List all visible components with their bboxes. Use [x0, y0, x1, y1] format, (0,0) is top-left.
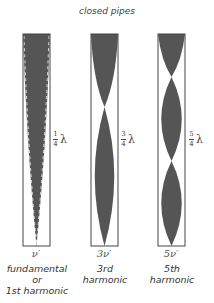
caption-line: or [0, 274, 74, 285]
caption-line: harmonic [141, 274, 203, 285]
pipe-3 [158, 34, 185, 246]
standing-wave-2a [91, 34, 118, 107]
length-label-1: 14 λ [53, 131, 67, 148]
pipe-2 [91, 34, 118, 246]
fraction-numerator: 3 [121, 131, 125, 138]
lambda-symbol: λ [60, 133, 67, 146]
caption-line: 1st harmonic [0, 285, 74, 296]
standing-wave-3a [158, 34, 185, 77]
frequency-label-1: ν′ [16, 248, 56, 259]
frequency-label-2: 3ν′ [84, 248, 124, 259]
length-label-2: 34 λ [121, 131, 135, 148]
pipe-1 [23, 34, 50, 246]
caption-3: 5th harmonic [141, 263, 203, 285]
lambda-symbol: λ [196, 133, 203, 146]
standing-wave-1 [23, 34, 50, 246]
fraction-denominator: 4 [121, 141, 125, 148]
standing-wave-2b [95, 107, 115, 246]
fraction-numerator: 1 [53, 131, 57, 138]
length-label-3: 54 λ [189, 131, 203, 148]
caption-line: harmonic [74, 274, 136, 285]
standing-wave-3b [161, 77, 182, 161]
caption-line: fundamental [0, 263, 74, 274]
frequency-label-3: 5ν′ [151, 248, 191, 259]
fraction-denominator: 4 [189, 141, 193, 148]
lambda-symbol: λ [128, 133, 135, 146]
fraction-numerator: 5 [189, 131, 193, 138]
caption-line: 5th [141, 263, 203, 274]
caption-1: fundamental or 1st harmonic [0, 263, 74, 296]
caption-2: 3rd harmonic [74, 263, 136, 285]
standing-wave-3c [161, 161, 182, 246]
caption-line: 3rd [74, 263, 136, 274]
fraction-denominator: 4 [53, 141, 57, 148]
